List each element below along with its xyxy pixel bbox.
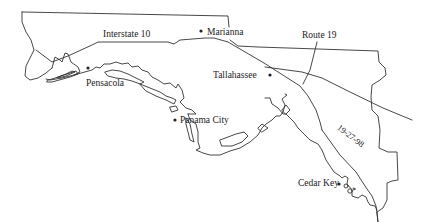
route-19-27-98 (322, 130, 378, 222)
island (348, 189, 352, 193)
tallahassee-dot (268, 73, 271, 76)
state-border-east (230, 40, 398, 222)
island (353, 188, 355, 190)
cedar-key-label: Cedar Key (298, 179, 339, 189)
tallahassee-label: Tallahassee (213, 71, 257, 81)
state-border (22, 12, 229, 80)
pensacola-dot (86, 66, 89, 69)
marianna-label: Marianna (207, 28, 243, 38)
interstate-10-label: Interstate 10 (103, 30, 150, 40)
route-19-label: Route 19 (302, 31, 337, 41)
pensacola-label: Pensacola (86, 79, 124, 89)
panama-city-dot (173, 118, 176, 121)
marianna-dot (199, 29, 202, 32)
road-east (265, 67, 412, 120)
bay-outline (47, 70, 290, 146)
island (344, 184, 348, 188)
panama-city-label: Panama City (180, 116, 229, 126)
